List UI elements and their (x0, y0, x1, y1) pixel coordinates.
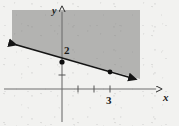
coordinate-plane-svg (0, 0, 179, 126)
y-axis-label: y (52, 6, 56, 16)
graph-figure: y x 2 3 (0, 0, 179, 126)
x-axis-label: x (163, 92, 169, 103)
y-intercept-point (59, 59, 64, 64)
shaded-half-plane (12, 10, 140, 79)
x-intercept-label: 3 (106, 95, 112, 106)
line-point-at-three (108, 70, 113, 75)
y-intercept-label: 2 (64, 45, 70, 56)
